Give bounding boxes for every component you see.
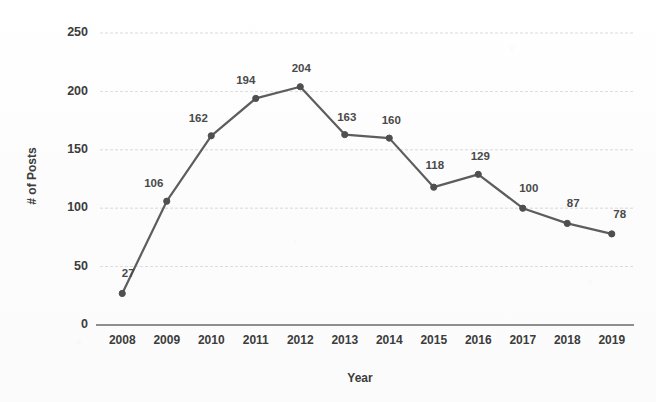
gridlines	[100, 33, 634, 267]
point-label-2009: 106	[144, 177, 163, 189]
x-tick-2015: 2015	[420, 333, 447, 347]
point-label-2016: 129	[471, 150, 490, 162]
x-tick-2014: 2014	[376, 333, 403, 347]
x-tick-2019: 2019	[598, 333, 625, 347]
x-tick-2011: 2011	[243, 333, 269, 347]
point-label-2010: 162	[189, 112, 208, 124]
line-chart: 050100150200250 200820092010201120122013…	[0, 0, 656, 402]
point-label-2015: 118	[425, 159, 444, 171]
marker-2014	[386, 135, 392, 141]
x-axis-title: Year	[347, 371, 373, 385]
point-label-2013: 163	[337, 111, 356, 123]
x-axis-tick-labels: 2008200920102011201220132014201520162017…	[109, 333, 626, 347]
marker-2009	[164, 198, 170, 204]
marker-2015	[431, 184, 437, 190]
y-axis-tick-labels: 050100150200250	[67, 25, 88, 331]
point-label-2019: 78	[613, 208, 626, 220]
y-tick-150: 150	[67, 142, 88, 156]
x-tick-2010: 2010	[198, 333, 225, 347]
marker-2012	[297, 84, 303, 90]
point-label-2014: 160	[382, 114, 401, 126]
y-tick-0: 0	[81, 317, 88, 331]
marker-2010	[208, 133, 214, 139]
marker-2018	[564, 220, 570, 226]
y-tick-100: 100	[67, 200, 88, 214]
marker-2019	[609, 231, 615, 237]
x-tick-2018: 2018	[554, 333, 581, 347]
x-tick-2013: 2013	[331, 333, 358, 347]
point-label-2012: 204	[292, 62, 312, 74]
point-label-2008: 27	[122, 267, 135, 279]
point-label-2018: 87	[567, 197, 580, 209]
point-label-2011: 194	[236, 74, 256, 86]
chart-canvas: 050100150200250 200820092010201120122013…	[0, 0, 656, 402]
x-tick-2009: 2009	[153, 333, 180, 347]
x-tick-2012: 2012	[287, 333, 314, 347]
marker-2008	[119, 290, 125, 296]
marker-2011	[253, 95, 259, 101]
point-label-2017: 100	[519, 182, 538, 194]
marker-2016	[475, 171, 481, 177]
marker-2013	[342, 132, 348, 138]
x-tick-2017: 2017	[509, 333, 536, 347]
y-axis-title: # of Posts	[25, 147, 39, 205]
x-tick-2008: 2008	[109, 333, 136, 347]
marker-2017	[520, 205, 526, 211]
y-tick-250: 250	[67, 25, 88, 39]
y-tick-200: 200	[67, 84, 88, 98]
x-tick-2016: 2016	[465, 333, 492, 347]
y-tick-50: 50	[74, 259, 88, 273]
data-point-labels: 271061621942041631601181291008778	[122, 62, 627, 280]
